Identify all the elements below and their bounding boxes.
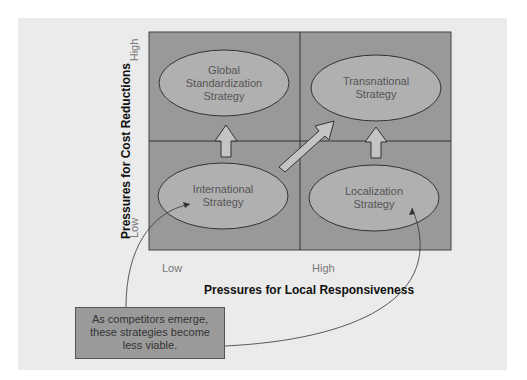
label-global-standardization: Global Standardization Strategy [164,64,284,103]
label-international: International Strategy [163,183,283,209]
y-tick-low: Low [128,213,140,243]
line: less viable. [76,339,224,352]
line: Strategy [314,198,434,211]
line: Standardization [164,77,284,90]
annotation-box: As competitors emerge, these strategies … [75,307,225,359]
x-tick-low: Low [162,262,182,274]
label-localization: Localization Strategy [314,185,434,211]
line: Global [164,64,284,77]
x-tick-high: High [312,262,335,274]
line: Transnational [316,75,436,88]
x-axis-title: Pressures for Local Responsiveness [204,283,414,297]
y-tick-high: High [128,35,140,65]
line: Localization [314,185,434,198]
line: As competitors emerge, [76,313,224,326]
line: Strategy [163,196,283,209]
line: International [163,183,283,196]
line: these strategies become [76,326,224,339]
line: Strategy [164,90,284,103]
label-transnational: Transnational Strategy [316,75,436,101]
line: Strategy [316,88,436,101]
